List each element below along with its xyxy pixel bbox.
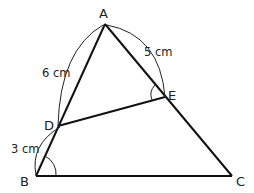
measure-ae: 5 cm xyxy=(144,45,173,59)
label-c: C xyxy=(236,174,245,189)
label-a: A xyxy=(99,6,108,21)
segment-ab xyxy=(36,24,105,176)
angle-e-mark xyxy=(151,85,155,100)
segment-de xyxy=(58,97,165,126)
triangle-diagram: A B C D E 6 cm 5 cm 3 cm xyxy=(0,0,254,193)
measure-db: 3 cm xyxy=(11,142,40,156)
angle-b-mark xyxy=(45,156,56,176)
label-b: B xyxy=(20,174,29,189)
label-d: D xyxy=(44,118,54,133)
label-e: E xyxy=(168,88,176,103)
measure-ad: 6 cm xyxy=(42,66,71,80)
